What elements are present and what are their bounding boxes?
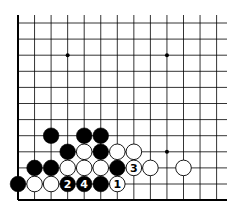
black-stone [43,128,59,144]
stone-disc [10,176,26,192]
stone-disc [76,128,92,144]
stone-disc [43,160,59,176]
white-stone-move-3: 3 [126,160,142,176]
stone-disc [110,160,126,176]
move-number-label: 3 [130,162,138,175]
black-stone [43,160,59,176]
black-stone [76,128,92,144]
stones: 3241 [10,128,191,192]
stone-disc [93,144,109,160]
black-stone [93,176,109,192]
black-stone [93,144,109,160]
white-stone [143,160,159,176]
stone-disc [93,176,109,192]
white-stone [110,144,126,160]
stone-disc [60,160,76,176]
black-stone [110,160,126,176]
stone-disc [143,160,159,176]
stone-disc [176,160,192,176]
stone-disc [60,144,76,160]
black-stone [10,176,26,192]
star-point-icon [165,53,169,57]
move-number-label: 2 [64,178,72,191]
white-stone [176,160,192,176]
stone-disc [126,144,142,160]
stone-disc [110,144,126,160]
stone-disc [93,128,109,144]
white-stone [76,160,92,176]
black-stone [27,160,43,176]
stone-disc [43,128,59,144]
stone-disc [76,144,92,160]
move-number-label: 4 [80,178,88,191]
stone-disc [93,160,109,176]
white-stone [27,176,43,192]
go-board: 3241 [0,0,241,212]
black-stone [60,144,76,160]
white-stone [93,160,109,176]
white-stone [43,176,59,192]
star-point-icon [165,150,169,154]
move-number-label: 1 [113,178,121,191]
white-stone [126,144,142,160]
white-stone-move-1: 1 [110,176,126,192]
stone-disc [76,160,92,176]
stone-disc [43,176,59,192]
stone-disc [27,160,43,176]
white-stone [76,144,92,160]
black-stone [93,128,109,144]
black-stone-move-4: 4 [76,176,92,192]
black-stone-move-2: 2 [60,176,76,192]
white-stone [60,160,76,176]
stone-disc [27,176,43,192]
star-point-icon [66,53,70,57]
